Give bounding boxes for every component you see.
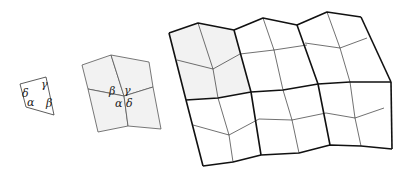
gamma-label: γ: [124, 84, 131, 97]
four-tile-cluster: [82, 55, 161, 132]
tiling-diagram: δ γ α β β γ α δ: [0, 0, 411, 175]
gamma-label: γ: [41, 78, 48, 91]
single-quad: δ γ α β: [20, 77, 54, 115]
delta-label: δ: [126, 97, 133, 110]
tiling-patch: [169, 12, 392, 166]
alpha-label: α: [27, 96, 35, 109]
alpha-label: α: [115, 97, 123, 110]
beta-label: β: [45, 97, 52, 110]
